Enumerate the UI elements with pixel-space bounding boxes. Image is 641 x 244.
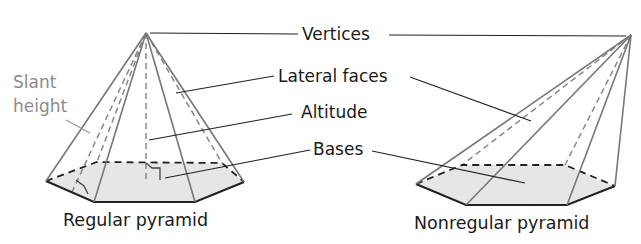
lateral-faces-leader-right (410, 77, 531, 121)
lateral-faces-leader-left (176, 76, 274, 93)
vertices-leader-right (389, 35, 626, 36)
nonregular-pyramid (416, 35, 631, 205)
label-height: height (13, 96, 68, 116)
lateral-edge (146, 33, 244, 182)
label-vertices: Vertices (302, 24, 370, 44)
hidden-edge (565, 35, 631, 165)
lateral-edge (416, 35, 631, 184)
hidden-edge (97, 33, 146, 162)
pyramid-diagram: Vertices Lateral faces Altitude Bases Sl… (0, 0, 641, 244)
regular-pyramid (46, 33, 244, 202)
nonregular-base-fill (416, 165, 615, 205)
caption-nonregular-pyramid: Nonregular pyramid (414, 213, 589, 233)
label-slant: Slant (13, 72, 57, 92)
label-altitude: Altitude (301, 102, 367, 122)
label-bases: Bases (313, 139, 363, 159)
hidden-edge (462, 35, 631, 165)
caption-regular-pyramid: Regular pyramid (63, 210, 208, 230)
vertices-leader-left (150, 33, 298, 34)
hidden-edge (146, 33, 222, 163)
label-lateral-faces: Lateral faces (278, 66, 388, 86)
